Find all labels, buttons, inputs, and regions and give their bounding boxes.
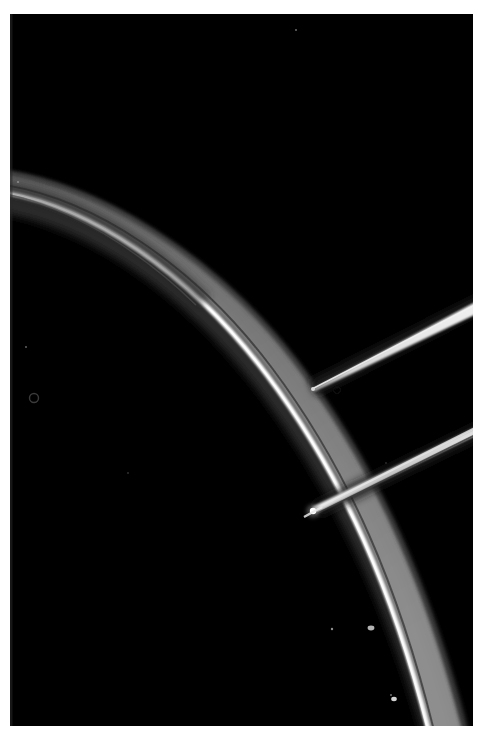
field-left-edge-strip: [10, 14, 13, 726]
image-frame-border: [0, 0, 485, 739]
bright-speck: [385, 462, 387, 464]
micrograph-canvas: [10, 14, 473, 726]
needle-tip-point: [311, 387, 315, 391]
bright-speck: [390, 694, 392, 696]
bright-speck: [17, 181, 19, 183]
bright-speck: [127, 472, 129, 474]
bright-speck: [331, 628, 333, 630]
bright-speck: [25, 346, 27, 348]
arc-surface-nodule: [368, 626, 375, 631]
micrograph-field: [10, 14, 473, 726]
arc-surface-nodule: [391, 697, 397, 701]
micrograph-viewport: [0, 0, 485, 739]
bright-speck: [295, 29, 297, 31]
